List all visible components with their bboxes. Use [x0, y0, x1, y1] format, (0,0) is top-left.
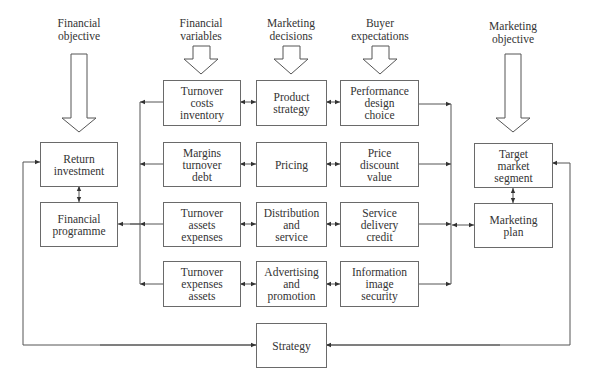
financial-objective-arrow-icon [62, 54, 96, 132]
marketing-objective-arrow-icon [496, 54, 530, 132]
return-investment-box: Return investment [40, 142, 118, 187]
strategy-box: Strategy [256, 323, 327, 368]
financial-programme-box: Financial programme [40, 202, 118, 247]
financial-variables-label: Financial variables [156, 17, 246, 43]
marketing-decisions-arrow-icon [274, 46, 308, 74]
financial-variable-box: Turnover expenses assets [163, 261, 241, 307]
marketing-decision-box: Distribution and service [256, 202, 327, 247]
financial-variable-box: Turnover assets expenses [163, 202, 241, 247]
buyer-expectation-box: Performance design choice [340, 80, 419, 126]
financial-variables-arrow-icon [184, 46, 218, 74]
financial-objective-label: Financial objective [34, 17, 124, 43]
buyer-expectation-box: Price discount value [340, 142, 419, 187]
buyer-expectations-label: Buyer expectations [335, 17, 425, 43]
marketing-objective-label: Marketing objective [468, 20, 558, 46]
buyer-expectations-arrow-icon [363, 46, 397, 74]
marketing-decision-box: Advertising and promotion [256, 261, 327, 307]
financial-variable-box: Turnover costs inventory [163, 80, 241, 126]
marketing-decision-box: Pricing [256, 142, 327, 187]
buyer-expectation-box: Service delivery credit [340, 202, 419, 247]
financial-variable-box: Margins turnover debt [163, 142, 241, 187]
marketing-decisions-label: Marketing decisions [246, 17, 336, 43]
target-market-segment-box: Target market segment [474, 143, 553, 188]
buyer-expectation-box: Information image security [340, 261, 419, 307]
marketing-plan-box: Marketing plan [474, 203, 553, 248]
marketing-decision-box: Product strategy [256, 80, 327, 126]
